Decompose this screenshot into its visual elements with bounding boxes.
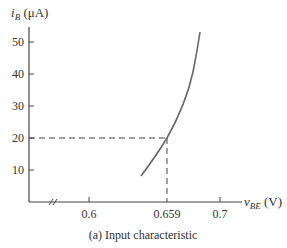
y-tick-40: 40	[12, 67, 24, 81]
y-tick-10: 10	[12, 163, 24, 177]
x-axis-label: vBE (V)	[244, 194, 282, 211]
x-tick-0.7: 0.7	[213, 207, 228, 221]
y-tick-20: 20	[12, 131, 24, 145]
x-ticks	[89, 197, 220, 202]
chart-caption: (a) Input characteristic	[89, 228, 198, 242]
x-tick-0.6: 0.6	[82, 207, 97, 221]
y-tick-50: 50	[12, 35, 24, 49]
y-axis-label: iB (μA)	[11, 5, 48, 22]
y-ticks	[29, 42, 34, 170]
x-tick-0.659: 0.659	[154, 207, 181, 221]
chart-canvas: 50 40 30 20 10 0.6 0.659 0.7 iB (μA) vBE…	[0, 0, 287, 248]
y-tick-30: 30	[12, 99, 24, 113]
ib-vbe-curve	[141, 32, 200, 176]
